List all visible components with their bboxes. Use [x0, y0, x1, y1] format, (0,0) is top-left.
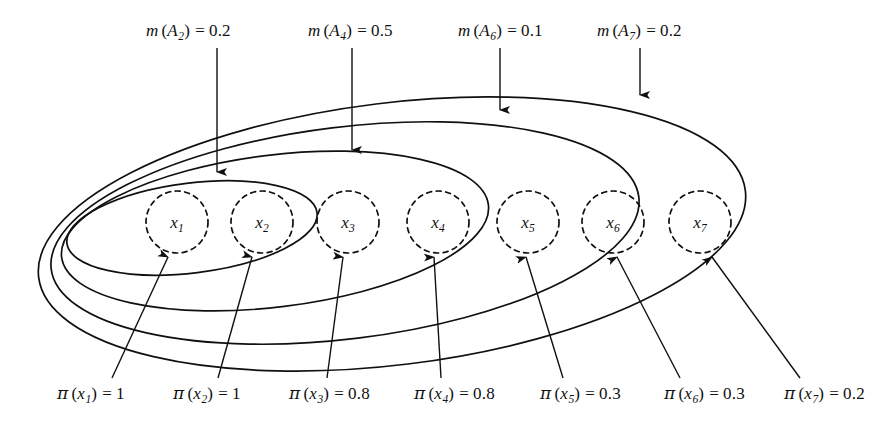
function-symbol: π [540, 383, 551, 403]
possibility-arrow-pi-x2 [218, 257, 252, 378]
function-symbol: m [597, 21, 609, 40]
singleton-label-x2: x2 [255, 213, 269, 234]
focal-set-ellipse-A7 [23, 61, 762, 408]
possibility-label-pi-x1: π(x1)=1 [57, 383, 125, 405]
function-symbol: π [664, 383, 675, 403]
singleton-label-x4: x4 [431, 213, 445, 234]
singleton-label-x7: x7 [693, 213, 707, 234]
mass-label-m-A7: m(A7)=0.2 [597, 21, 682, 42]
function-symbol: m [458, 21, 470, 40]
singleton-label-x3: x3 [341, 213, 355, 234]
function-symbol: π [414, 383, 425, 403]
function-symbol: π [784, 383, 795, 403]
diagram-svg [0, 0, 892, 433]
function-symbol: π [173, 383, 184, 403]
possibility-label-pi-x7: π(x7)=0.2 [784, 383, 865, 405]
possibility-arrow-pi-x6 [617, 257, 680, 378]
singleton-label-x6: x6 [606, 213, 620, 234]
mass-label-m-A2: m(A2)=0.2 [146, 21, 231, 42]
possibility-arrow-pi-x7 [712, 257, 800, 378]
focal-set-ellipse-A2 [61, 168, 322, 288]
possibility-arrow-group [112, 257, 800, 378]
focal-set-ellipses [23, 61, 762, 408]
function-symbol: m [146, 21, 158, 40]
possibility-label-pi-x4: π(x4)=0.8 [414, 383, 495, 405]
singleton-label-x1: x1 [170, 213, 184, 234]
possibility-label-pi-x3: π(x3)=0.8 [289, 383, 370, 405]
possibility-label-pi-x2: π(x2)=1 [173, 383, 241, 405]
possibility-label-pi-x5: π(x5)=0.3 [540, 383, 621, 405]
function-symbol: m [308, 21, 320, 40]
mass-label-m-A4: m(A4)=0.5 [308, 21, 393, 42]
possibility-label-pi-x6: π(x6)=0.3 [664, 383, 745, 405]
function-symbol: π [57, 383, 68, 403]
function-symbol: π [289, 383, 300, 403]
possibility-arrow-pi-x5 [526, 257, 563, 378]
possibility-arrow-pi-x3 [327, 257, 343, 378]
figure-canvas: x1x2x3x4x5x6x7 m(A2)=0.2m(A4)=0.5m(A6)=0… [0, 0, 892, 433]
mass-label-m-A6: m(A6)=0.1 [458, 21, 543, 42]
singleton-label-x5: x5 [521, 213, 535, 234]
